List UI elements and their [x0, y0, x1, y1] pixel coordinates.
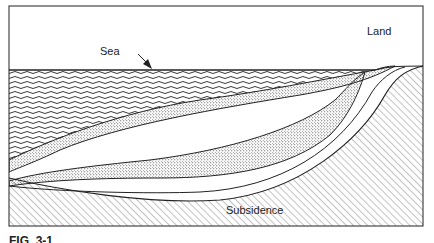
figure-caption: FIG. 3-1: [9, 234, 53, 243]
subsidence-label: Subsidence: [226, 204, 284, 216]
land-label: Land: [367, 25, 391, 37]
sea-pointer-arrow: [138, 54, 152, 69]
sea-label: Sea: [100, 45, 120, 57]
